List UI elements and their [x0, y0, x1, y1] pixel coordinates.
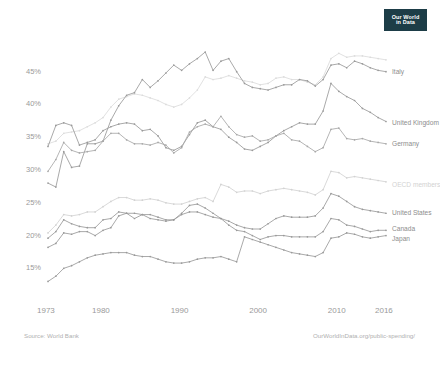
- data-point[interactable]: [283, 130, 285, 132]
- data-point[interactable]: [275, 87, 277, 89]
- data-point[interactable]: [259, 140, 261, 142]
- data-point[interactable]: [377, 70, 379, 72]
- data-point[interactable]: [369, 178, 371, 180]
- data-point[interactable]: [369, 56, 371, 58]
- data-point[interactable]: [197, 89, 199, 91]
- data-point[interactable]: [71, 233, 73, 235]
- data-point[interactable]: [314, 256, 316, 258]
- data-point[interactable]: [118, 211, 120, 213]
- data-point[interactable]: [165, 220, 167, 222]
- series-line-france[interactable]: [48, 53, 386, 143]
- data-point[interactable]: [79, 214, 81, 216]
- data-point[interactable]: [63, 122, 65, 124]
- data-point[interactable]: [110, 106, 112, 108]
- data-point[interactable]: [220, 256, 222, 258]
- data-point[interactable]: [157, 142, 159, 144]
- data-point[interactable]: [197, 211, 199, 213]
- data-point[interactable]: [330, 170, 332, 172]
- data-point[interactable]: [86, 126, 88, 128]
- data-point[interactable]: [291, 236, 293, 238]
- data-point[interactable]: [228, 75, 230, 77]
- data-point[interactable]: [157, 80, 159, 82]
- data-point[interactable]: [346, 67, 348, 69]
- data-point[interactable]: [157, 199, 159, 201]
- data-point[interactable]: [173, 262, 175, 264]
- data-point[interactable]: [63, 267, 65, 269]
- data-point[interactable]: [173, 152, 175, 154]
- data-point[interactable]: [307, 236, 309, 238]
- data-point[interactable]: [173, 203, 175, 205]
- data-point[interactable]: [79, 261, 81, 263]
- data-point[interactable]: [299, 190, 301, 192]
- data-point[interactable]: [252, 235, 254, 237]
- data-point[interactable]: [47, 182, 49, 184]
- data-point[interactable]: [157, 216, 159, 218]
- data-point[interactable]: [244, 148, 246, 150]
- data-point[interactable]: [354, 226, 356, 228]
- data-point[interactable]: [79, 226, 81, 228]
- data-point[interactable]: [86, 142, 88, 144]
- data-point[interactable]: [362, 55, 364, 57]
- our-world-in-data-logo[interactable]: Our World in Data: [384, 9, 427, 31]
- data-point[interactable]: [197, 122, 199, 124]
- data-point[interactable]: [267, 223, 269, 225]
- data-point[interactable]: [212, 70, 214, 72]
- data-point[interactable]: [267, 89, 269, 91]
- data-point[interactable]: [86, 151, 88, 153]
- data-point[interactable]: [377, 117, 379, 119]
- series-line-germany[interactable]: [48, 116, 386, 171]
- data-point[interactable]: [71, 223, 73, 225]
- data-point[interactable]: [102, 229, 104, 231]
- data-point[interactable]: [346, 138, 348, 140]
- data-point[interactable]: [212, 126, 214, 128]
- data-point[interactable]: [275, 235, 277, 237]
- data-point[interactable]: [63, 214, 65, 216]
- data-point[interactable]: [220, 77, 222, 79]
- data-point[interactable]: [204, 207, 206, 209]
- data-point[interactable]: [204, 257, 206, 259]
- data-point[interactable]: [197, 126, 199, 128]
- data-point[interactable]: [259, 84, 261, 86]
- data-point[interactable]: [134, 143, 136, 145]
- data-point[interactable]: [79, 130, 81, 132]
- data-point[interactable]: [307, 146, 309, 148]
- data-point[interactable]: [134, 199, 136, 201]
- data-point[interactable]: [63, 219, 65, 221]
- data-point[interactable]: [141, 79, 143, 81]
- data-point[interactable]: [354, 206, 356, 208]
- data-point[interactable]: [189, 261, 191, 263]
- data-point[interactable]: [299, 216, 301, 218]
- data-point[interactable]: [212, 79, 214, 81]
- data-point[interactable]: [236, 261, 238, 263]
- data-point[interactable]: [354, 233, 356, 235]
- data-point[interactable]: [369, 140, 371, 142]
- data-point[interactable]: [189, 201, 191, 203]
- data-point[interactable]: [330, 58, 332, 60]
- data-point[interactable]: [55, 159, 57, 161]
- data-point[interactable]: [55, 224, 57, 226]
- data-point[interactable]: [94, 143, 96, 145]
- data-point[interactable]: [126, 139, 128, 141]
- data-point[interactable]: [197, 258, 199, 260]
- data-point[interactable]: [354, 55, 356, 57]
- data-point[interactable]: [338, 172, 340, 174]
- data-point[interactable]: [220, 184, 222, 186]
- data-point[interactable]: [110, 252, 112, 254]
- data-point[interactable]: [79, 152, 81, 154]
- data-point[interactable]: [197, 203, 199, 205]
- data-point[interactable]: [236, 229, 238, 231]
- data-point[interactable]: [354, 176, 356, 178]
- data-point[interactable]: [126, 197, 128, 199]
- data-point[interactable]: [47, 281, 49, 283]
- data-point[interactable]: [228, 58, 230, 60]
- data-point[interactable]: [283, 249, 285, 251]
- data-point[interactable]: [330, 83, 332, 85]
- data-point[interactable]: [322, 110, 324, 112]
- data-point[interactable]: [189, 97, 191, 99]
- data-point[interactable]: [354, 100, 356, 102]
- data-point[interactable]: [291, 79, 293, 81]
- data-point[interactable]: [157, 258, 159, 260]
- data-point[interactable]: [385, 181, 387, 183]
- data-point[interactable]: [118, 197, 120, 199]
- data-point[interactable]: [267, 244, 269, 246]
